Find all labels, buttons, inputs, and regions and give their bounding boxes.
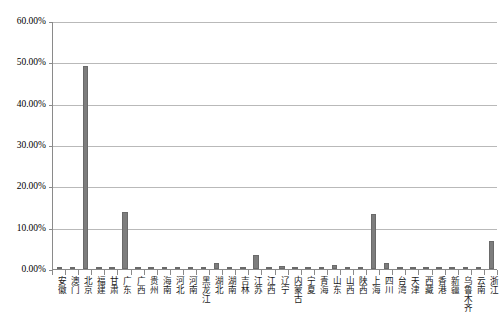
bar (410, 267, 415, 269)
x-tick-label: 浙江 (484, 276, 497, 294)
bar (266, 267, 271, 269)
x-axis-labels: 安徽澳门北京福建甘肃广东广西贵州海南河北河南黑龙江湖北湖南吉林江苏江西辽宁内蒙古… (52, 276, 497, 323)
x-tick-mark (170, 270, 171, 275)
bar (371, 214, 376, 269)
x-tick-mark (314, 270, 315, 275)
x-tick-label: 甘肃 (104, 276, 117, 294)
x-tick-label: 江苏 (248, 276, 261, 294)
bar-chart: 0.00%10.00%20.00%30.00%40.00%50.00%60.00… (0, 0, 503, 323)
bar-series (53, 22, 497, 269)
x-tick-label: 湖南 (222, 276, 235, 294)
x-tick-mark (340, 270, 341, 275)
bar (148, 267, 153, 269)
bar (292, 267, 297, 269)
x-tick-label: 广东 (117, 276, 130, 294)
x-tick-label: 辽宁 (275, 276, 288, 294)
x-tick-mark (366, 270, 367, 275)
x-tick-label: 河北 (170, 276, 183, 294)
x-tick-label: 贵州 (144, 276, 157, 294)
x-tick-label: 湖北 (209, 276, 222, 294)
x-tick-label: 黑龙江 (196, 276, 209, 303)
x-tick-mark (91, 270, 92, 275)
x-tick-label: 福建 (91, 276, 104, 294)
x-tick-mark (78, 270, 79, 275)
x-tick-label: 山东 (327, 276, 340, 294)
x-tick-mark (353, 270, 354, 275)
x-tick-label: 新疆 (445, 276, 458, 294)
bar (345, 267, 350, 269)
x-tick-label: 台湾 (392, 276, 405, 294)
y-tick-label: 60.00% (17, 17, 46, 27)
y-tick-label: 30.00% (17, 141, 46, 151)
bar (397, 267, 402, 269)
x-tick-label: 宁夏 (301, 276, 314, 294)
y-axis-labels: 0.00%10.00%20.00%30.00%40.00%50.00%60.00… (0, 22, 50, 270)
x-tick-mark (405, 270, 406, 275)
x-tick-mark (458, 270, 459, 275)
x-tick-mark (131, 270, 132, 275)
x-tick-mark (432, 270, 433, 275)
x-tick-mark (275, 270, 276, 275)
plot-area (52, 22, 497, 270)
x-tick-mark (392, 270, 393, 275)
x-tick-label: 内蒙古 (288, 276, 301, 303)
x-tick-label: 河南 (183, 276, 196, 294)
x-tick-mark (261, 270, 262, 275)
x-tick-label: 青海 (314, 276, 327, 294)
bar (188, 267, 193, 269)
bar (358, 267, 363, 269)
y-tick-label: 10.00% (17, 224, 46, 234)
bar (332, 265, 337, 269)
bar (162, 267, 167, 269)
x-tick-label: 天津 (405, 276, 418, 294)
bar (463, 267, 468, 269)
bar (96, 267, 101, 269)
bar (83, 66, 88, 269)
x-tick-mark (301, 270, 302, 275)
bar (135, 267, 140, 269)
x-tick-label: 云南 (471, 276, 484, 294)
x-tick-mark (157, 270, 158, 275)
y-tick-label: 0.00% (21, 265, 46, 275)
bar (70, 267, 75, 269)
x-tick-mark (327, 270, 328, 275)
x-tick-label: 香港 (432, 276, 445, 294)
x-tick-label: 陕西 (353, 276, 366, 294)
bar (305, 267, 310, 269)
x-tick-label: 山西 (340, 276, 353, 294)
x-tick-mark (183, 270, 184, 275)
x-tick-label: 北京 (78, 276, 91, 294)
x-tick-mark (497, 270, 498, 275)
bar (122, 212, 127, 269)
bar (201, 267, 206, 269)
bar (109, 267, 114, 269)
x-tick-mark (418, 270, 419, 275)
x-tick-mark (484, 270, 485, 275)
x-tick-mark (196, 270, 197, 275)
x-tick-mark (379, 270, 380, 275)
bar (476, 267, 481, 269)
bar (279, 266, 284, 269)
bar (214, 263, 219, 269)
bar (253, 255, 258, 269)
x-tick-label: 澳门 (65, 276, 78, 294)
bar (57, 267, 62, 269)
x-tick-mark (471, 270, 472, 275)
x-tick-label: 乌鲁木齐 (458, 276, 471, 312)
bar (227, 267, 232, 269)
bar (175, 267, 180, 269)
x-tick-label: 四川 (379, 276, 392, 294)
x-tick-label: 西藏 (419, 276, 432, 294)
bar (240, 267, 245, 269)
x-tick-label: 安徽 (52, 276, 65, 294)
x-tick-mark (248, 270, 249, 275)
x-axis-ticks (52, 270, 497, 275)
x-tick-mark (144, 270, 145, 275)
y-tick-label: 40.00% (17, 100, 46, 110)
bar (384, 263, 389, 269)
x-tick-label: 海南 (157, 276, 170, 294)
x-tick-mark (65, 270, 66, 275)
x-tick-mark (222, 270, 223, 275)
x-tick-mark (209, 270, 210, 275)
x-tick-mark (235, 270, 236, 275)
